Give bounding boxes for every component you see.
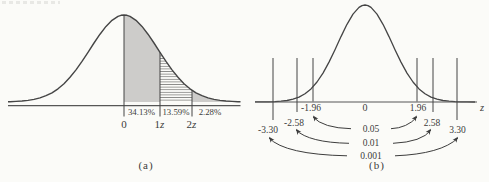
tick-label-2z-var: z xyxy=(191,118,197,130)
axis-var-z: z xyxy=(479,102,484,113)
crit-label-neg330: -3.30 xyxy=(258,125,278,135)
alpha-arc-005-left xyxy=(313,117,351,129)
caption-b: (b) xyxy=(369,159,385,172)
caption-a: (a) xyxy=(138,159,153,172)
tick-label-1z-var: z xyxy=(159,118,165,130)
crit-label-pos196: 1.96 xyxy=(410,103,427,113)
alpha-arc-001-right xyxy=(393,130,431,143)
crit-label-neg196: -1.96 xyxy=(301,103,321,113)
area-label-2: 2.28% xyxy=(199,107,222,117)
zero-label: 0 xyxy=(363,102,368,113)
area-label-34: 34.13% xyxy=(128,107,156,117)
tick-label-2z: 2z xyxy=(187,118,198,130)
alpha-arc-001-left xyxy=(296,130,349,143)
alpha-arc-0001-right xyxy=(395,138,458,156)
area-label-13: 13.59% xyxy=(162,107,190,117)
normal-curve-b xyxy=(255,5,475,102)
panel-b-critical-values: -1.96 0 1.96 z -2.58 2.58 -3.30 3.30 0.0… xyxy=(245,0,489,182)
tick-label-0-num: 0 xyxy=(121,118,127,130)
panel-a-normal-curve-areas: 34.13% 13.59% 2.28% 0 1z 2z (a) xyxy=(0,0,245,182)
tick-label-0: 0 xyxy=(121,118,127,130)
figure-page: 34.13% 13.59% 2.28% 0 1z 2z (a) -1.96 0 … xyxy=(0,0,489,182)
crit-label-pos330: 3.30 xyxy=(449,125,466,135)
alpha-label-001: 0.01 xyxy=(363,138,380,148)
area-0-to-1z xyxy=(124,15,160,102)
tick-label-1z: 1z xyxy=(155,118,166,130)
crit-label-neg258: -2.58 xyxy=(284,118,304,128)
crit-label-pos258: 2.58 xyxy=(424,118,441,128)
alpha-arc-0001-left xyxy=(269,138,347,156)
alpha-label-005: 0.05 xyxy=(363,124,380,134)
